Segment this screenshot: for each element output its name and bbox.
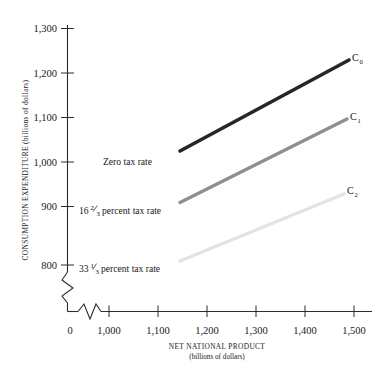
annotation-zero-tax-rate: Zero tax rate xyxy=(103,156,152,167)
y-tick-1300: 1,300 xyxy=(33,23,57,34)
y-tick-1100: 1,100 xyxy=(33,112,57,123)
y-tick-1000: 1,000 xyxy=(33,157,57,168)
y-tick-900: 900 xyxy=(41,201,57,212)
curve-label-c0: C 0 xyxy=(352,52,364,65)
series-c2-line xyxy=(180,194,344,261)
curve-label-c1-sub: 1 xyxy=(358,117,361,124)
curve-label-c2: C 2 xyxy=(347,185,358,198)
curve-label-c2-sub: 2 xyxy=(355,191,358,198)
series-c0-line xyxy=(180,60,349,151)
chart-figure: 1,300 1,200 1,100 1,000 900 800 0 1,000 … xyxy=(0,0,382,373)
annotation-16-denominator: 3 xyxy=(97,210,101,217)
annotation-33-rest: percent tax rate xyxy=(101,263,160,274)
curve-label-c0-base: C xyxy=(352,52,359,63)
x-axis-tick-labels: 0 1,000 1,100 1,200 1,300 1,400 1,500 xyxy=(67,325,365,336)
curve-label-c1-base: C xyxy=(350,111,357,122)
chart-svg: 1,300 1,200 1,100 1,000 900 800 0 1,000 … xyxy=(0,0,382,373)
x-axis xyxy=(68,304,373,319)
annotation-thirtythree-one-third: 33 1 3 percent tax rate xyxy=(79,262,160,275)
x-tick-1200: 1,200 xyxy=(195,325,219,336)
annotation-33-denominator: 3 xyxy=(96,268,100,275)
y-tick-1200: 1,200 xyxy=(33,68,57,79)
x-axis-subtitle: (billions of dollars) xyxy=(189,353,245,361)
x-tick-1000: 1,000 xyxy=(97,325,121,336)
annotation-16-whole: 16 xyxy=(79,205,89,216)
series-c1-line xyxy=(180,119,347,203)
y-axis-title: CONSUMPTION EXPENDITURE (billions of dol… xyxy=(21,79,30,260)
y-axis xyxy=(62,25,73,312)
y-axis-tick-labels: 1,300 1,200 1,100 1,000 900 800 xyxy=(33,23,57,271)
x-tick-1400: 1,400 xyxy=(293,325,317,336)
y-tick-800: 800 xyxy=(41,260,57,271)
annotation-16-rest: percent tax rate xyxy=(102,205,161,216)
x-tick-1100: 1,100 xyxy=(146,325,170,336)
curve-label-c0-sub: 0 xyxy=(360,58,364,65)
x-tick-1500: 1,500 xyxy=(342,325,366,336)
x-tick-0: 0 xyxy=(67,325,72,336)
x-axis-title: NET NATIONAL PRODUCT xyxy=(169,342,266,351)
annotation-33-numerator: 1 xyxy=(91,262,94,269)
x-tick-1300: 1,300 xyxy=(244,325,268,336)
curve-label-c2-base: C xyxy=(347,185,354,196)
annotation-33-whole: 33 xyxy=(79,263,89,274)
annotation-sixteen-two-thirds: 16 2 3 percent tax rate xyxy=(79,204,161,217)
curve-label-c1: C 1 xyxy=(350,111,361,124)
annotation-16-numerator: 2 xyxy=(91,204,95,211)
